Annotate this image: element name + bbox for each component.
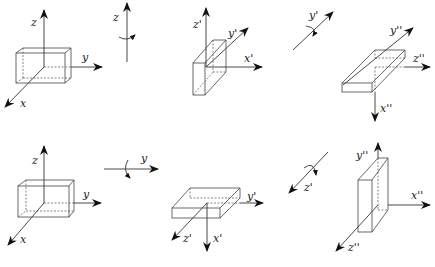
- x-axis-label: x: [20, 97, 27, 110]
- rotation-axis-label: z': [303, 181, 313, 194]
- x-prime-label: x': [244, 52, 253, 65]
- top-rotation-about-z: z: [112, 3, 135, 62]
- x-prime-label: x': [213, 232, 222, 245]
- top-frame-after-first-rotation: z' y' x': [192, 8, 262, 95]
- top-frame-initial: z y x: [5, 10, 102, 110]
- box: [18, 180, 74, 217]
- z-prime-label: z': [192, 18, 202, 31]
- z-double-prime-label: z'': [347, 241, 360, 254]
- box: [193, 40, 226, 95]
- rotation-axis-label: y': [308, 9, 318, 22]
- diagram-canvas: z y x z z' y' x' y': [0, 0, 435, 267]
- box: [358, 158, 388, 232]
- y-axis-label: y: [82, 188, 90, 201]
- rotation-axis-label: y: [140, 152, 148, 165]
- box: [342, 50, 405, 92]
- euler-rotation-diagram: z y x z z' y' x' y': [0, 0, 435, 267]
- z-axis-label: z: [31, 154, 38, 167]
- x-double-prime-label: x'': [411, 189, 423, 202]
- top-rotation-about-y-prime: y': [293, 9, 333, 50]
- z-prime-label: z': [182, 232, 192, 245]
- y-prime-axis: [206, 28, 248, 67]
- bottom-rotation-about-z-prime: z': [289, 152, 328, 194]
- y-axis-label: y: [81, 51, 89, 64]
- y-double-prime-label: y'': [355, 149, 368, 162]
- z-double-prime-label: z'': [412, 52, 425, 65]
- bottom-frame-initial: z y x: [8, 146, 101, 246]
- top-frame-after-second-rotation: y'' z'' x'': [342, 24, 430, 121]
- box: [16, 48, 71, 83]
- x-double-prime-label: x'': [380, 102, 392, 115]
- bottom-frame-after-second-rotation: y'' x'' z'': [336, 143, 430, 254]
- rotation-axis-label: z: [112, 11, 119, 24]
- y-double-prime-label: y'': [389, 24, 402, 37]
- y-prime-label: y': [227, 27, 237, 40]
- y-prime-label: y': [246, 190, 256, 203]
- x-axis-label: x: [20, 233, 27, 246]
- bottom-rotation-about-y: y: [104, 152, 158, 178]
- z-axis-label: z: [30, 16, 37, 29]
- bottom-frame-after-first-rotation: y' z' x': [172, 188, 263, 251]
